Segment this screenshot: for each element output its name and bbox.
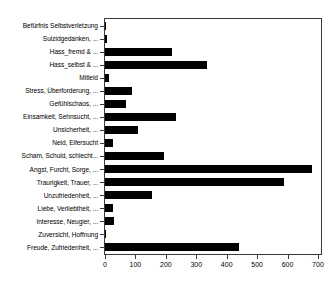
bar	[105, 22, 106, 30]
category-label: Suizidgedanken, ...	[0, 32, 99, 45]
x-axis-tick-label: 200	[160, 261, 172, 268]
y-axis-tick	[100, 117, 104, 118]
bar-row	[105, 19, 321, 32]
category-label: Hass_selbst & ...	[0, 58, 99, 71]
bar-row	[105, 215, 321, 228]
category-label: Stress, Überforderung, ...	[0, 84, 99, 97]
y-axis-tick	[100, 143, 104, 144]
bar	[105, 152, 164, 160]
y-axis-tick	[100, 195, 104, 196]
bar	[105, 204, 113, 212]
x-axis-tick	[105, 255, 106, 259]
category-label: Einsamkeit, Sehnsucht, ...	[0, 110, 99, 123]
bar	[105, 74, 109, 82]
category-label: Befürfnis Selbstverletzung	[0, 19, 99, 32]
bar-row	[105, 228, 321, 241]
bar	[105, 178, 284, 186]
y-axis-tick	[100, 130, 104, 131]
x-axis-tick	[227, 255, 228, 259]
bar-row	[105, 163, 321, 176]
bar	[105, 217, 114, 225]
y-axis-tick	[100, 26, 104, 27]
bar-row	[105, 71, 321, 84]
y-axis-tick	[100, 78, 104, 79]
bar	[105, 139, 113, 147]
bar-row	[105, 45, 321, 58]
category-label: Angst, Furcht, Sorge, ...	[0, 163, 99, 176]
x-axis-tick-label: 600	[282, 261, 294, 268]
y-axis-tick	[100, 156, 104, 157]
bar-row	[105, 202, 321, 215]
category-label: Liebe, Verliebtheit, ...	[0, 202, 99, 215]
bar	[105, 61, 207, 69]
category-label: Mitleid	[0, 71, 99, 84]
category-label: Unzufriedenheit, ...	[0, 189, 99, 202]
x-axis-tick-label: 500	[251, 261, 263, 268]
category-label: Interesse, Neugier, ...	[0, 215, 99, 228]
y-axis-tick	[100, 52, 104, 53]
bars-container	[105, 19, 321, 254]
bar-row	[105, 32, 321, 45]
category-axis-labels: Befürfnis SelbstverletzungSuizidgedanken…	[0, 19, 99, 254]
y-axis-tick	[100, 208, 104, 209]
category-label: Zuversicht, Hoffnung	[0, 228, 99, 241]
bar-row	[105, 149, 321, 162]
category-label: Traurigkeit, Trauer, ...	[0, 176, 99, 189]
bar-row	[105, 176, 321, 189]
y-axis-tick	[100, 234, 104, 235]
x-axis-tick-label: 0	[103, 261, 107, 268]
y-axis-tick	[100, 91, 104, 92]
bar	[105, 35, 107, 43]
category-label: Hass_fremd & ...	[0, 45, 99, 58]
x-axis-tick	[196, 255, 197, 259]
y-axis-tick	[100, 65, 104, 66]
bar	[105, 243, 239, 251]
x-axis-tick	[166, 255, 167, 259]
x-axis-tick	[318, 255, 319, 259]
bar	[105, 165, 312, 173]
bar-row	[105, 97, 321, 110]
y-axis-tick	[100, 169, 104, 170]
x-axis-tick	[135, 255, 136, 259]
bar-row	[105, 189, 321, 202]
bar-row	[105, 84, 321, 97]
x-axis-tick-label: 100	[130, 261, 142, 268]
y-axis-tick	[100, 247, 104, 248]
bar	[105, 230, 106, 238]
y-axis-tick	[100, 182, 104, 183]
x-axis-tick	[288, 255, 289, 259]
x-axis-tick-label: 700	[312, 261, 324, 268]
category-label: Scham, Schuld, schlecht...	[0, 149, 99, 162]
x-axis-tick-label: 300	[190, 261, 202, 268]
bar	[105, 48, 172, 56]
y-axis-tick	[100, 104, 104, 105]
bar	[105, 126, 138, 134]
x-axis-tick-label: 400	[221, 261, 233, 268]
category-label: Unsicherheit, ...	[0, 123, 99, 136]
bar-row	[105, 110, 321, 123]
bar	[105, 87, 132, 95]
bar	[105, 191, 152, 199]
bar-row	[105, 241, 321, 254]
bar-row	[105, 58, 321, 71]
bar	[105, 113, 176, 121]
bar-row	[105, 123, 321, 136]
x-axis-tick	[257, 255, 258, 259]
y-axis-tick	[100, 221, 104, 222]
category-label: Freude, Zufriedenheit, ...	[0, 241, 99, 254]
y-axis-tick	[100, 39, 104, 40]
category-label: Gefühlschaos, ...	[0, 97, 99, 110]
bar-chart: Befürfnis SelbstverletzungSuizidgedanken…	[0, 0, 332, 290]
category-label: Neid, Eifersucht	[0, 136, 99, 149]
bar-row	[105, 136, 321, 149]
bar	[105, 100, 126, 108]
